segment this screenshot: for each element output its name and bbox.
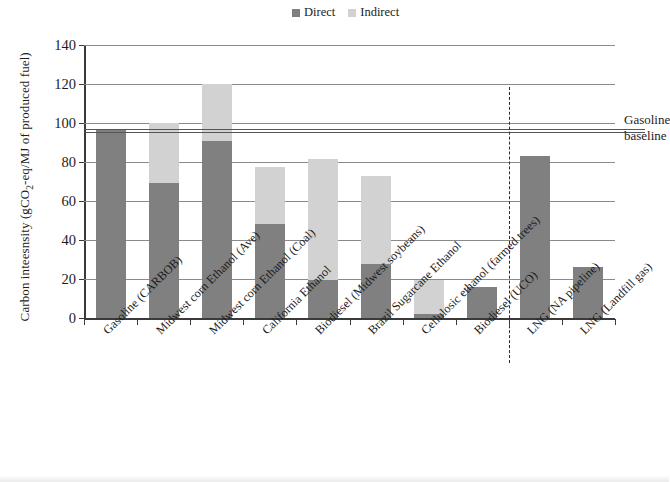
x-tick-mark — [562, 319, 563, 325]
gasoline-baseline-line — [84, 129, 615, 133]
annotation-line-2: baseline — [624, 128, 670, 144]
legend-label-direct: Direct — [304, 5, 335, 20]
y-tick-mark — [79, 84, 84, 85]
bar-column[interactable] — [361, 176, 391, 318]
scan-edge-artifact — [0, 475, 669, 482]
bar-segment-direct[interactable] — [202, 141, 232, 318]
bar-segment-indirect[interactable] — [255, 167, 285, 225]
y-axis-title-main: Carbon inteesnsity (gCO — [17, 190, 32, 322]
legend-label-indirect: Indirect — [360, 5, 399, 20]
legend-entry-indirect: Indirect — [348, 5, 399, 20]
y-tick-label: 100 — [36, 116, 76, 131]
y-tick-label: 80 — [36, 155, 76, 170]
bar-column[interactable] — [149, 123, 179, 318]
bar-segment-direct[interactable] — [308, 280, 338, 318]
bar-column[interactable] — [308, 159, 338, 318]
gasoline-baseline-annotation: Gasoline baseline — [624, 112, 670, 144]
y-tick-mark — [79, 240, 84, 241]
bar-segment-direct[interactable] — [414, 314, 444, 318]
x-tick-mark — [615, 319, 616, 325]
y-tick-mark — [79, 123, 84, 124]
bar-segment-indirect[interactable] — [414, 280, 444, 314]
x-tick-mark — [456, 319, 457, 325]
gridline — [84, 84, 615, 85]
bar-column[interactable] — [467, 287, 497, 318]
y-tick-label: 20 — [36, 272, 76, 287]
bar-segment-direct[interactable] — [96, 130, 126, 318]
bar-column[interactable] — [573, 267, 603, 318]
y-tick-label: 40 — [36, 233, 76, 248]
legend-swatch-indirect — [348, 9, 356, 17]
legend-swatch-direct — [292, 9, 300, 17]
y-tick-label: 140 — [36, 38, 76, 53]
bar-segment-direct[interactable] — [467, 287, 497, 318]
y-tick-label: 0 — [36, 311, 76, 326]
x-tick-mark — [190, 319, 191, 325]
x-tick-mark — [403, 319, 404, 325]
bar-segment-direct[interactable] — [149, 183, 179, 318]
y-axis-line — [84, 45, 86, 319]
x-tick-mark — [509, 319, 510, 325]
annotation-line-1: Gasoline — [624, 112, 670, 128]
y-tick-mark — [79, 318, 84, 319]
bar-segment-direct[interactable] — [520, 156, 550, 318]
y-tick-mark — [79, 162, 84, 163]
x-tick-mark — [137, 319, 138, 325]
y-tick-mark — [79, 201, 84, 202]
bar-segment-indirect[interactable] — [361, 176, 391, 265]
x-tick-mark — [296, 319, 297, 325]
bar-segment-direct[interactable] — [361, 264, 391, 318]
plot-area — [84, 45, 615, 318]
bar-segment-indirect[interactable] — [308, 159, 338, 280]
bar-segment-direct[interactable] — [573, 267, 603, 318]
bar-segment-direct[interactable] — [255, 224, 285, 318]
bar-column[interactable] — [414, 280, 444, 318]
x-tick-mark — [350, 319, 351, 325]
y-tick-label: 120 — [36, 77, 76, 92]
y-axis-title-rest: -eq/MJ of produced fuel) — [17, 52, 32, 185]
x-tick-mark — [243, 319, 244, 325]
y-tick-mark — [79, 279, 84, 280]
bar-column[interactable] — [520, 156, 550, 318]
bar-column[interactable] — [202, 84, 232, 318]
y-tick-label: 60 — [36, 194, 76, 209]
bar-column[interactable] — [96, 130, 126, 318]
bar-column[interactable] — [255, 167, 285, 318]
gridline — [84, 45, 615, 46]
chart-legend: Direct Indirect — [292, 5, 399, 20]
y-axis-tick-labels: 020406080100120140 — [32, 45, 76, 318]
legend-entry-direct: Direct — [292, 5, 335, 20]
x-tick-mark — [84, 319, 85, 325]
y-tick-mark — [79, 45, 84, 46]
